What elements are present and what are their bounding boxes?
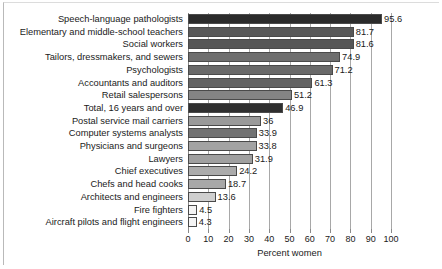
- bar-row: Speech-language pathologists95.6: [0, 13, 442, 26]
- bar-value-label: 51.2: [294, 89, 312, 102]
- plot-area: Speech-language pathologists95.6Elementa…: [0, 0, 442, 269]
- percent-women-bar-chart: Speech-language pathologists95.6Elementa…: [0, 0, 442, 269]
- category-label: Physicians and surgeons: [0, 140, 183, 153]
- tick-mark-70: [330, 229, 331, 233]
- category-label: Fire fighters: [0, 204, 183, 217]
- tick-mark-20: [229, 229, 230, 233]
- bar-value-label: 74.9: [342, 51, 360, 64]
- bar-value-label: 13.6: [218, 191, 236, 204]
- bar-row: Tailors, dressmakers, and sewers74.9: [0, 51, 442, 64]
- category-label: Lawyers: [0, 153, 183, 166]
- tick-mark-100: [391, 229, 392, 233]
- bar-row: Lawyers31.9: [0, 153, 442, 166]
- bar-value-label: 4.5: [199, 204, 212, 217]
- bar-value-label: 33.9: [259, 127, 277, 140]
- bar-value-label: 71.2: [335, 64, 353, 77]
- bar: [188, 27, 354, 37]
- bar-row: Computer systems analysts33.9: [0, 127, 442, 140]
- category-label: Accountants and auditors: [0, 77, 183, 90]
- bar-value-label: 4.3: [199, 216, 212, 229]
- bar-row: Architects and engineers13.6: [0, 191, 442, 204]
- bar: [188, 217, 197, 227]
- bar-value-label: 33.8: [259, 140, 277, 153]
- category-label: Total, 16 years and over: [0, 102, 183, 115]
- bar-value-label: 61.3: [314, 77, 332, 90]
- bar-row: Social workers81.6: [0, 38, 442, 51]
- tick-mark-30: [249, 229, 250, 233]
- bar-row: Fire fighters4.5: [0, 204, 442, 217]
- bar-value-label: 36: [263, 115, 273, 128]
- bar: [188, 90, 292, 100]
- bar-row: Total, 16 years and over46.9: [0, 102, 442, 115]
- bar-row: Elementary and middle-school teachers81.…: [0, 26, 442, 39]
- category-label: Chefs and head cooks: [0, 178, 183, 191]
- bar-row: Psychologists71.2: [0, 64, 442, 77]
- bar: [188, 14, 382, 24]
- bar-row: Aircraft pilots and flight engineers4.3: [0, 216, 442, 229]
- tick-mark-40: [269, 229, 270, 233]
- category-label: Architects and engineers: [0, 191, 183, 204]
- bar: [188, 166, 237, 176]
- bar-value-label: 81.7: [356, 26, 374, 39]
- bar-value-label: 46.9: [285, 102, 303, 115]
- category-label: Elementary and middle-school teachers: [0, 26, 183, 39]
- bar-row: Retail salespersons51.2: [0, 89, 442, 102]
- bar: [188, 128, 257, 138]
- tick-mark-50: [290, 229, 291, 233]
- category-label: Postal service mail carriers: [0, 115, 183, 128]
- bar: [188, 205, 197, 215]
- bar-value-label: 18.7: [228, 178, 246, 191]
- x-tick-label: 100: [376, 234, 406, 245]
- bar-value-label: 31.9: [255, 153, 273, 166]
- category-label: Psychologists: [0, 64, 183, 77]
- bar: [188, 116, 261, 126]
- bar-value-label: 81.6: [356, 38, 374, 51]
- bar-row: Physicians and surgeons33.8: [0, 140, 442, 153]
- category-label: Aircraft pilots and flight engineers: [0, 216, 183, 229]
- bar-row: Accountants and auditors61.3: [0, 77, 442, 90]
- bar: [188, 78, 312, 88]
- bar-row: Chief executives24.2: [0, 165, 442, 178]
- bar-value-label: 24.2: [239, 165, 257, 178]
- bar: [188, 179, 226, 189]
- category-label: Social workers: [0, 38, 183, 51]
- bar: [188, 141, 257, 151]
- bar: [188, 192, 216, 202]
- bar: [188, 52, 340, 62]
- category-label: Speech-language pathologists: [0, 13, 183, 26]
- category-label: Tailors, dressmakers, and sewers: [0, 51, 183, 64]
- tick-mark-90: [371, 229, 372, 233]
- category-label: Computer systems analysts: [0, 127, 183, 140]
- bar: [188, 65, 333, 75]
- tick-mark-80: [350, 229, 351, 233]
- bar-row: Chefs and head cooks18.7: [0, 178, 442, 191]
- bar-value-label: 95.6: [384, 13, 402, 26]
- x-axis-title: Percent women: [188, 248, 391, 258]
- bar: [188, 39, 354, 49]
- bar: [188, 154, 253, 164]
- bar-row: Postal service mail carriers36: [0, 115, 442, 128]
- tick-mark-60: [310, 229, 311, 233]
- tick-mark-0: [188, 229, 189, 233]
- category-label: Retail salespersons: [0, 89, 183, 102]
- bar: [188, 103, 283, 113]
- tick-mark-10: [208, 229, 209, 233]
- category-label: Chief executives: [0, 165, 183, 178]
